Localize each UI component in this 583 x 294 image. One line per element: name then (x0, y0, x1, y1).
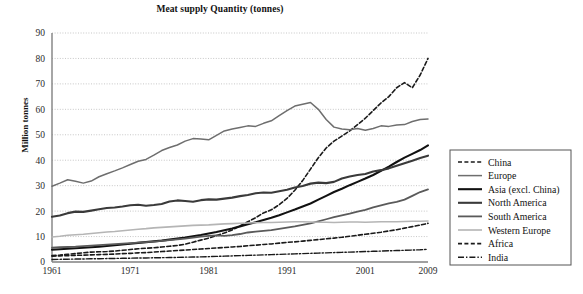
line-chart-plot: 0102030405060708090 19611971198119912001… (0, 0, 583, 294)
y-axis-ticks: 0102030405060708090 (36, 28, 46, 267)
legend-label: Asia (excl. China) (488, 184, 560, 196)
series-line-europe (52, 102, 428, 186)
legend-label: Western Europe (488, 225, 551, 236)
y-tick-label: 30 (36, 181, 46, 191)
x-tick-label: 1971 (121, 266, 140, 276)
series-lines (52, 58, 428, 259)
y-tick-label: 60 (36, 105, 46, 115)
y-tick-label: 40 (36, 156, 46, 166)
x-tick-label: 2001 (356, 266, 375, 276)
y-tick-label: 10 (36, 232, 46, 242)
legend-label: North America (488, 197, 547, 208)
x-tick-label: 1991 (278, 266, 297, 276)
y-tick-label: 90 (36, 28, 46, 38)
x-tick-label: 2009 (419, 266, 438, 276)
series-line-india (52, 249, 428, 259)
legend-label: Europe (488, 170, 517, 181)
chart-legend: ChinaEuropeAsia (excl. China)North Ameri… (450, 150, 571, 265)
y-tick-label: 70 (36, 79, 46, 89)
x-tick-label: 1961 (43, 266, 62, 276)
y-tick-label: 50 (36, 130, 46, 140)
y-axis-label: Million tonnes (20, 70, 30, 180)
legend-label: Africa (488, 238, 514, 249)
legend-label: India (488, 252, 509, 263)
x-axis-ticks: 196119711981199120012009 (43, 266, 438, 276)
series-line-south-america (52, 189, 428, 247)
y-tick-label: 20 (36, 207, 46, 217)
chart-figure: Meat supply Quantity (tonnes) Million to… (0, 0, 583, 294)
gridlines (52, 33, 428, 237)
chart-title: Meat supply Quantity (tonnes) (0, 4, 440, 14)
x-tick-label: 1981 (199, 266, 218, 276)
legend-label: China (488, 157, 512, 168)
legend-label: South America (488, 211, 547, 222)
y-tick-label: 80 (36, 54, 46, 64)
